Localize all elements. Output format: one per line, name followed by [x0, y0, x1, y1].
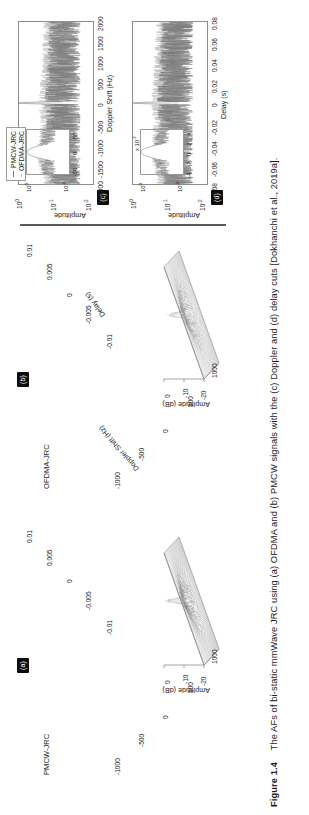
panel-d-xtick-4: 0 — [211, 103, 218, 107]
legend-label-pmcw: PMCW-JRC — [10, 131, 17, 168]
panel-d-xtick-8: 0.08 — [211, 17, 218, 30]
panel-d-inset-ytick-1: 10-2 — [175, 182, 183, 192]
figure-caption-text: The AFs of bi-static mmWave JRC using (a… — [269, 158, 279, 751]
panel-d-inset-xtick-2: 0 — [186, 153, 192, 156]
panel-d-xtick-1: -0.06 — [211, 162, 218, 177]
panel-c-xtick-8: 2000 — [97, 16, 104, 31]
panel-b-ytick-3: 0.005 — [46, 263, 53, 280]
panel-c-inset-plot — [27, 130, 69, 174]
rotated-figure-container: (a) PMCW-JRC 0 -10 -20 Amplitude (dB) — [0, 0, 309, 815]
panel-b-xtick-0: 1000 — [211, 363, 218, 378]
figure-1-4: (a) PMCW-JRC 0 -10 -20 Amplitude (dB) — [0, 0, 309, 815]
panel-b-xtick-1: 500 — [187, 396, 194, 407]
panel-d-inset-xtick-0: -4 — [186, 173, 192, 178]
panel-a-xtick-4: -1000 — [114, 758, 121, 775]
panel-d-inset-ytick-0: 100 — [138, 183, 146, 192]
panel-d-inset — [140, 129, 184, 175]
panel-d-ytick-2: 10-2 — [198, 199, 206, 211]
panel-c-xtick-7: 1500 — [97, 36, 104, 51]
panel-d-ytick-1: 10-1 — [163, 199, 171, 211]
panel-d-xtick-6: 0.04 — [211, 59, 218, 72]
panel-a-xtick-2: 0 — [162, 715, 169, 719]
panel-a-ytick-4: 0.01 — [26, 530, 33, 543]
panel-d-inset-xtick-4: 4 — [186, 133, 192, 136]
panel-c-inset-xtick-0: -50 — [72, 168, 78, 176]
panel-c-xtick-1: -1500 — [97, 161, 104, 178]
panel-a-ytick-3: 0.005 — [46, 549, 53, 566]
panel-a-xtick-3: -500 — [138, 734, 145, 747]
legend-label-ofdma: OFDMA-JRC — [18, 131, 25, 171]
panel-d-inset-xtick-1: -2 — [186, 162, 192, 167]
panel-c-xtick-6: 1000 — [97, 56, 104, 71]
panel-d-xtick-2: -0.04 — [211, 141, 218, 156]
panel-a-badge: (a) — [17, 658, 29, 673]
panel-c-xtick-4: 0 — [97, 103, 104, 107]
panel-a-title: PMCW-JRC — [42, 734, 51, 775]
panel-b-xtick-4: -1000 — [114, 472, 121, 489]
panel-b-badge: (b) — [17, 372, 29, 387]
panel-c-ytick-0: 100 — [15, 199, 23, 209]
panel-b-xtick-3: -500 — [138, 448, 145, 461]
panel-c-xtick-5: 500 — [97, 79, 104, 90]
panel-d-inset-plot — [141, 130, 183, 174]
panel-c-xtick-0: -2000 — [97, 181, 104, 198]
panel-c-inset-xtick-2: 50 — [72, 133, 78, 139]
panel-d-inset-xscale: x 10-3 — [132, 136, 140, 151]
panel-c-ytick-1: 10-1 — [49, 199, 57, 211]
panel-c-legend: PMCW-JRC OFDMA-JRC — [6, 127, 26, 181]
panel-a-ytick-1: -0.005 — [85, 591, 92, 610]
panel-c-ytick-2: 10-2 — [84, 199, 92, 211]
panel-d-ytick-0: 100 — [129, 199, 137, 209]
panel-c-xaxis-label: Doppler Shift (Hz) — [105, 75, 114, 132]
panel-c-inset-ytick-0: 100 — [24, 183, 32, 192]
panel-b-ytick-4: 0.01 — [26, 244, 33, 257]
panel-c-xtick-2: -1000 — [97, 140, 104, 157]
panel-b: (b) OFDMA-JRC 0 -10 -20 Amplitude (dB) 1… — [14, 245, 224, 495]
panel-divider — [20, 224, 226, 226]
legend-item-ofdma: OFDMA-JRC — [17, 131, 25, 177]
figure-caption: Figure 1.4 The AFs of bi-static mmWave J… — [268, 7, 281, 807]
panel-c-xtick-3: -500 — [97, 121, 104, 134]
panel-d-xtick-7: 0.06 — [211, 38, 218, 51]
panel-b-ztick-0: 0 — [164, 394, 171, 398]
panel-b-ytick-2: 0 — [66, 293, 73, 297]
panel-c: (c) 100 10-1 10-2 Amplitude -2000 -1500 … — [14, 15, 114, 211]
legend-line-pmcw-icon — [13, 171, 14, 177]
legend-item-pmcw: PMCW-JRC — [9, 131, 17, 177]
panel-d-xtick-3: -0.02 — [211, 120, 218, 135]
figure-number: Figure 1.4 — [269, 762, 279, 807]
panel-b-ytick-0: -0.01 — [106, 334, 113, 349]
panel-d-inset-xtick-3: 2 — [186, 143, 192, 146]
panel-c-inset — [26, 129, 70, 175]
panel-c-inset-xtick-1: 0 — [72, 152, 78, 155]
panel-d-xtick-0: -0.08 — [211, 183, 218, 198]
panel-c-inset-ytick-1: 10-2 — [61, 182, 69, 192]
panel-a-xtick-1: 500 — [187, 682, 194, 693]
panel-a: (a) PMCW-JRC 0 -10 -20 Amplitude (dB) — [14, 531, 224, 781]
panel-d: (d) 100 10-1 10-2 Amplitude -0.08 -0.06 … — [128, 15, 228, 211]
figure-page: (a) PMCW-JRC 0 -10 -20 Amplitude (dB) — [0, 0, 309, 815]
panel-d-yaxis-label: Amplitude — [168, 211, 200, 220]
panel-b-ztick-2: -20 — [200, 390, 207, 400]
panel-a-ztick-2: -20 — [200, 676, 207, 686]
panel-c-yaxis-label: Amplitude — [54, 211, 86, 220]
panel-d-xaxis-label: Delay (s) — [219, 90, 228, 119]
panel-a-ytick-0: -0.01 — [106, 620, 113, 635]
panel-d-xtick-5: 0.02 — [211, 80, 218, 93]
panel-a-ztick-0: 0 — [164, 680, 171, 684]
panel-b-title: OFDMA-JRC — [42, 444, 51, 489]
panel-a-ytick-2: 0 — [66, 579, 73, 583]
panel-a-xtick-0: 1000 — [211, 649, 218, 664]
panel-b-xtick-2: 0 — [162, 429, 169, 433]
legend-line-ofdma-icon — [21, 174, 22, 177]
